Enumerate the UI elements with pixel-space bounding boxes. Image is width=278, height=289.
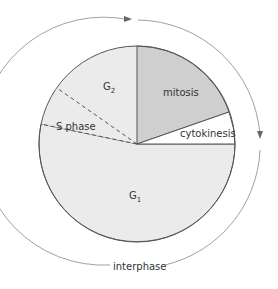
label-interphase: interphase [113,261,166,272]
arrow-head-top-icon [124,16,132,22]
cell-cycle-diagram: mitosis cytokinesis G1 S phase G2 interp… [0,0,278,289]
arrow-head-right-icon [257,131,263,139]
label-cytokinesis: cytokinesis [180,128,236,139]
label-mitosis: mitosis [163,87,199,98]
label-s-phase: S phase [56,121,96,132]
